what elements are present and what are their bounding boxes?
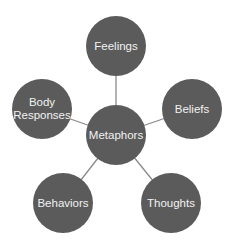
node-label: Beliefs [175,103,210,116]
node-behaviors: Behaviors [33,173,93,233]
node-label: Body Responses [13,96,71,122]
node-beliefs: Beliefs [162,79,222,139]
node-metaphors-center: Metaphors [86,105,146,165]
node-label: Metaphors [89,129,143,142]
node-label: Feelings [94,40,137,53]
node-feelings: Feelings [86,16,146,76]
node-body-responses: Body Responses [12,79,72,139]
node-label: Behaviors [37,197,88,210]
node-thoughts: Thoughts [141,173,201,233]
node-label: Thoughts [147,197,195,210]
